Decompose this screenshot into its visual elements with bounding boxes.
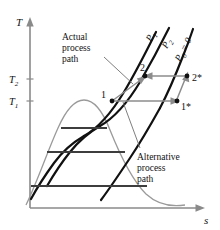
arrow-1-to-2-line	[112, 79, 142, 101]
isobar-p1-vapor	[84, 32, 156, 136]
state-label-2-star: 2*	[192, 72, 202, 83]
actual-path-line-3: path	[62, 54, 79, 64]
tick-label-T2-sub: 2	[15, 80, 19, 88]
state-point-2-star-marker	[185, 74, 190, 79]
pressure-label-p2: P2	[159, 37, 176, 53]
y-axis-label: T	[16, 16, 23, 28]
leader-lines-group	[104, 57, 140, 148]
leader-alternative-path	[123, 102, 140, 148]
alternative-path-line-3: path	[137, 174, 154, 184]
pressure-label-p0: P0 = 0	[172, 36, 196, 65]
svg-text:P2: P2	[159, 37, 176, 53]
svg-text:P1: P1	[143, 30, 159, 45]
tick-label-T1-sub: 1	[15, 102, 19, 110]
state-point-1-star-marker	[175, 99, 180, 104]
actual-path-line-1: Actual	[62, 32, 88, 42]
state-label-1: 1	[101, 89, 106, 100]
actual-path-line-2: process	[62, 43, 91, 53]
y-axis-arrowhead	[26, 17, 33, 27]
x-axis-arrowhead	[196, 204, 206, 211]
alternative-path-line-2: process	[137, 163, 166, 173]
alternative-path-line-1: Alternative	[137, 152, 180, 162]
x-axis-label: s	[204, 214, 208, 226]
leader-actual-path	[104, 57, 133, 84]
annotation-actual-process-path: Actual process path	[62, 32, 91, 64]
tick-label-T1: T1	[9, 96, 18, 110]
state-point-2-marker	[143, 74, 148, 79]
state-label-2: 2	[140, 62, 145, 73]
state-label-1-star: 1*	[181, 101, 191, 112]
annotation-alternative-process-path: Alternative process path	[137, 152, 180, 184]
tick-label-T2: T2	[9, 74, 19, 88]
ts-diagram-figure: T s T2 T1 P1 P2	[0, 0, 220, 230]
state-point-1-marker	[110, 99, 115, 104]
svg-text:P0 = 0: P0 = 0	[172, 36, 196, 65]
pressure-label-p0-suffix: = 0	[177, 36, 193, 55]
isobar-group	[31, 28, 193, 200]
diagram-canvas: T s T2 T1 P1 P2	[0, 0, 220, 230]
pressure-label-p1: P1	[143, 30, 159, 45]
